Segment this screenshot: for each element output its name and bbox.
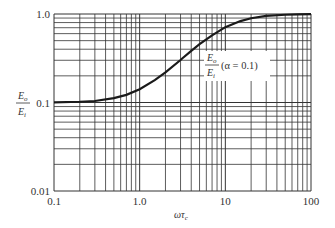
grid-lines xyxy=(54,14,311,191)
tick-labels: 0.11.0101000.010.11.0 xyxy=(31,8,320,207)
y-tick-label: 0.01 xyxy=(31,185,50,197)
svg-text:(α = 0.1): (α = 0.1) xyxy=(221,60,258,72)
x-tick-label: 10 xyxy=(220,195,232,207)
x-tick-label: 1.0 xyxy=(133,195,147,207)
y-tick-label: 1.0 xyxy=(36,8,50,20)
svg-text:Ei: Ei xyxy=(17,106,26,119)
frequency-response-chart: 0.11.0101000.010.11.0 Eo Ei ωτc Eo Ei (α… xyxy=(0,0,335,228)
svg-text:Eo: Eo xyxy=(17,90,28,103)
curve-annotation: Eo Ei (α = 0.1) xyxy=(204,51,270,81)
x-tick-label: 100 xyxy=(303,195,320,207)
svg-text:ωτc: ωτc xyxy=(174,209,189,222)
y-axis-label: Eo Ei xyxy=(16,90,30,119)
y-tick-label: 0.1 xyxy=(36,97,50,109)
x-axis-label: ωτc xyxy=(174,209,189,222)
